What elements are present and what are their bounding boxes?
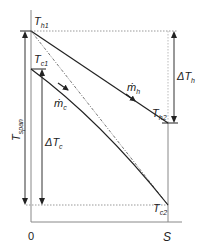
hot-stream-arrow	[126, 94, 135, 101]
reference-dashdot-line	[31, 31, 168, 205]
label-delta-t-c: ΔTc	[44, 136, 63, 150]
label-x-origin: 0	[28, 230, 34, 242]
label-delta-t-h: ΔTh	[176, 70, 195, 84]
heat-exchanger-diagram: Th1 Tc1 Th2 Tc2 ṁh ṁc ΔTh ΔTc Tspan 0 S	[0, 0, 199, 251]
label-t-c1: Tc1	[34, 53, 48, 67]
cold-stream-arrow	[58, 83, 68, 90]
label-t-span: Tspan	[10, 119, 25, 141]
label-x-end: S	[163, 230, 171, 244]
label-m-h: ṁh	[127, 81, 140, 95]
label-t-h1: Th1	[34, 15, 49, 29]
hot-stream-line	[31, 31, 168, 123]
label-m-c: ṁc	[54, 97, 67, 111]
label-t-h2: Th2	[152, 107, 167, 121]
label-t-c2: Tc2	[153, 202, 167, 216]
